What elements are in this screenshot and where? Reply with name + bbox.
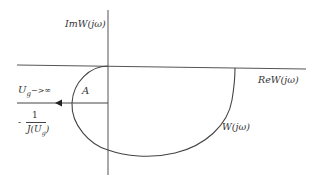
minus-sign: - [18,117,21,127]
fraction-numerator: 1 [32,110,38,120]
arrowhead-icon [55,100,62,107]
frequency-response-curve [72,66,235,156]
imaginary-axis-label: ImW(jω) [65,19,106,29]
denominator-suffix: ) [46,124,50,134]
fraction-bar [26,122,46,123]
negative-inverse-describing-function: - 1 J(Ug) [18,110,63,140]
region-label: A [82,86,89,96]
denominator-prefix: J(U [27,124,42,134]
amplitude-limit-label: Ug−>∞ [18,85,51,98]
fraction-denominator: J(Ug) [27,124,49,136]
curve-label: W(jω) [222,122,250,132]
real-axis-label: ReW(jω) [258,75,299,85]
amplitude-limit-tail: −>∞ [31,86,51,95]
real-axis [17,65,306,69]
